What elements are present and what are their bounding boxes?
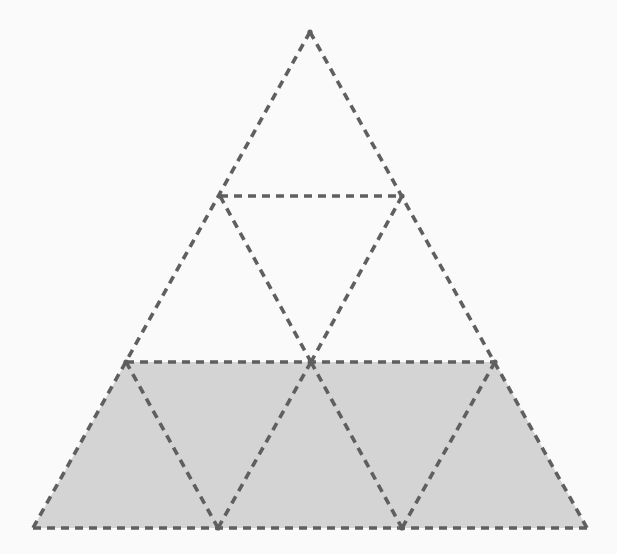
vertex-node-n-apex (307, 29, 312, 34)
vertex-node-n-base-a (215, 525, 220, 530)
vertex-node-n-row2-right (492, 359, 497, 364)
shaded-bottom-row-region (33, 362, 587, 528)
triangle-figure-container (0, 0, 617, 554)
vertex-node-n-base-b (399, 525, 404, 530)
vertex-node-n-left-mid (217, 193, 222, 198)
triangle-diagram-svg (0, 0, 617, 554)
vertex-node-n-center (308, 359, 315, 366)
vertex-node-n-right-mid (399, 193, 404, 198)
vertex-node-n-row2-left (123, 359, 128, 364)
